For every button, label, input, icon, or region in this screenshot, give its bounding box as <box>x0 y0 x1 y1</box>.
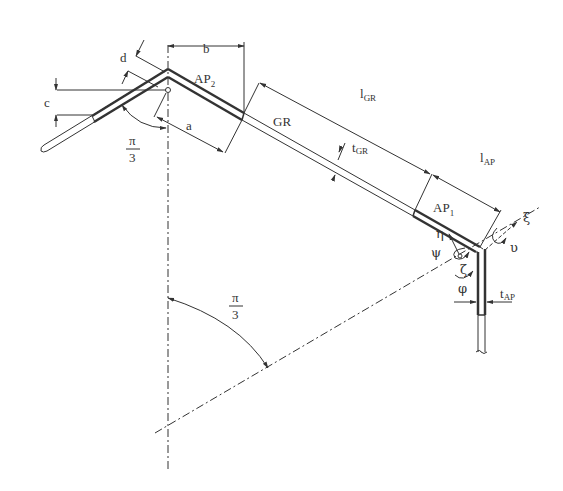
inclined-axis-line <box>155 207 540 433</box>
angle-top-den: 3 <box>129 150 136 165</box>
angle-top-num: π <box>129 133 136 148</box>
label-zeta: ζ <box>460 262 467 277</box>
label-gr: GR <box>273 114 291 129</box>
label-b: b <box>203 41 210 56</box>
label-l-gr: lGR <box>360 86 376 103</box>
left-arm <box>41 69 168 152</box>
label-upsilon: υ <box>510 240 518 255</box>
label-eta: η <box>436 226 444 241</box>
beam-diagram: b d c a AP2 GR AP1 lGR tGR lAP tAP π 3 π… <box>0 0 563 491</box>
angle-bottom-den: 3 <box>232 307 239 322</box>
dim-c <box>56 78 166 127</box>
label-a: a <box>186 118 192 133</box>
label-psi: ψ <box>431 245 441 260</box>
pivot-point <box>166 88 171 93</box>
angle-arc-bottom <box>168 298 268 368</box>
dim-a <box>154 93 242 153</box>
label-l-ap: lAP <box>480 150 495 167</box>
upsilon-rotation <box>492 228 506 243</box>
label-t-ap: tAP <box>500 286 515 302</box>
label-xi: ξ <box>523 210 530 225</box>
label-phi: φ <box>458 281 467 296</box>
dim-d <box>122 40 165 87</box>
angle-bottom-num: π <box>232 290 239 305</box>
label-ap1: AP1 <box>433 200 454 218</box>
dim-l-gr <box>244 83 432 210</box>
label-t-gr: tGR <box>352 140 368 156</box>
ap2-gr-beam <box>168 69 480 252</box>
label-d: d <box>120 50 127 65</box>
vertical-leg <box>476 247 487 354</box>
angle-arc-top <box>122 105 166 128</box>
point-c <box>458 254 462 258</box>
label-c: c <box>44 95 50 110</box>
